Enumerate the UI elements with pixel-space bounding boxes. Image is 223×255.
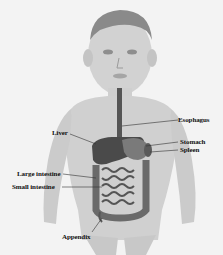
label-liver: Liver (52, 129, 68, 137)
esophagus (117, 88, 122, 140)
label-spleen: Spleen (180, 146, 199, 154)
child-body-illustration (0, 0, 223, 255)
label-large-intestine: Large intestine (17, 170, 60, 178)
label-esophagus: Esophagus (178, 116, 209, 124)
label-small-intestine: Small intestine (12, 183, 55, 191)
label-stomach: Stomach (180, 138, 205, 146)
label-appendix: Appendix (62, 233, 90, 241)
